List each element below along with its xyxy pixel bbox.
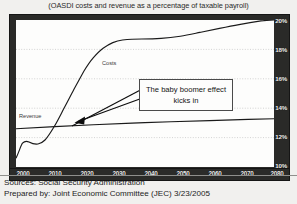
y-tick-16: 16% [275,75,287,82]
series-label-costs: Costs [102,60,116,66]
y-tick-20: 20% [275,17,287,24]
chart-page: (OASDI costs and revenue as a percentage… [0,0,297,204]
callout-arrow [72,86,148,126]
series-label-revenue: Revenue [19,113,41,119]
callout-text: The baby boomer effect kicks in [140,84,232,106]
chart-subtitle: (OASDI costs and revenue as a percentage… [0,1,297,10]
prepared-by-text: Prepared by: Joint Economic Committee (J… [4,189,294,198]
sources-text: Sources: Social Security Administration [4,178,294,187]
y-tick-14: 14% [275,104,287,111]
revenue-line [16,119,274,129]
callout-box: The baby boomer effect kicks in [139,79,233,111]
y-tick-12: 12% [275,133,287,140]
y-tick-18: 18% [275,46,287,53]
footer-divider [0,175,297,176]
